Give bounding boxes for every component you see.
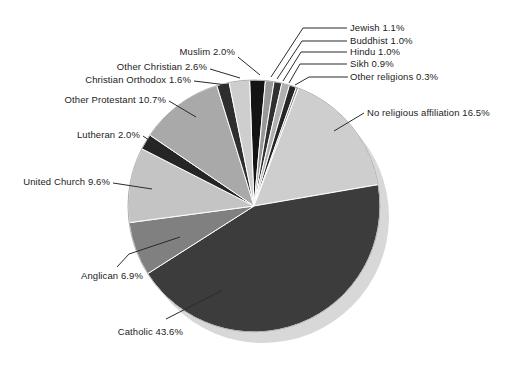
slice-label-catholic: Catholic 43.6%	[118, 326, 184, 337]
slice-label-lutheran: Lutheran 2.0%	[77, 129, 141, 140]
leader-line-other-religions	[295, 77, 348, 85]
slice-label-other-christian: Other Christian 2.6%	[117, 61, 208, 72]
slice-label-jewish: Jewish 1.1%	[350, 22, 405, 33]
slice-label-anglican: Anglican 6.9%	[81, 270, 143, 281]
leader-line-christian-orthodox	[194, 81, 227, 85]
slice-label-christian-orthodox: Christian Orthodox 1.6%	[85, 74, 191, 85]
leader-line-muslim	[238, 57, 260, 75]
slice-label-hindu: Hindu 1.0%	[350, 46, 401, 57]
slice-label-no-religious-affiliation: No religious affiliation 16.5%	[367, 107, 490, 118]
slice-label-sikh: Sikh 0.9%	[350, 58, 394, 69]
leader-line-other-christian	[210, 69, 240, 78]
leader-line-sikh	[289, 64, 347, 83]
slice-label-other-protestant: Other Protestant 10.7%	[65, 94, 167, 105]
slice-label-united-church: United Church 9.6%	[23, 176, 110, 187]
pie-chart-figure: Muslim 2.0%Jewish 1.1%Buddhist 1.0%Hindu…	[0, 0, 516, 367]
slice-label-buddhist: Buddhist 1.0%	[350, 35, 413, 46]
slice-label-muslim: Muslim 2.0%	[180, 46, 236, 57]
religions-pie-chart: Muslim 2.0%Jewish 1.1%Buddhist 1.0%Hindu…	[0, 0, 516, 367]
slice-label-other-religions: Other religions 0.3%	[350, 71, 439, 82]
